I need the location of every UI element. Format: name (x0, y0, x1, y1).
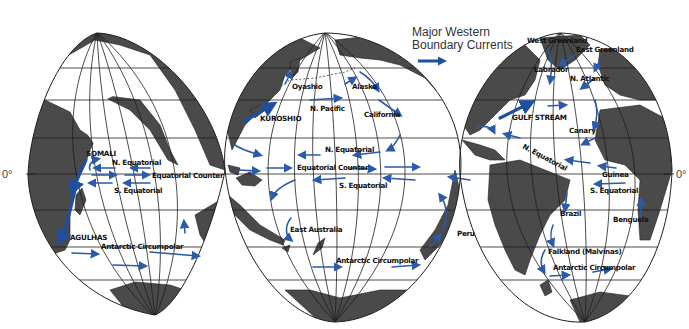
label-pacific-equatorial-counter: Equatorial Counter (297, 163, 369, 172)
label-east-greenland: East Greenland (576, 45, 634, 54)
pacific-ocean-lobe: Oyashio Alaska N. Pacific KUROSHIO Calif… (220, 32, 475, 322)
label-benguela: Benguela (613, 215, 649, 224)
legend-title-line2: Boundary Currents (412, 39, 513, 52)
label-pacific-n-equatorial: N. Equatorial (325, 145, 374, 154)
label-alaska: Alaska (352, 82, 377, 91)
label-peru: Peru (457, 229, 475, 238)
label-somali: SOMALI (86, 149, 117, 158)
label-indian-n-equatorial: N. Equatorial (112, 158, 161, 167)
label-gulf-stream: GULF STREAM (512, 113, 567, 122)
label-pacific-antarctic-circumpolar: Antarctic Circumpolar (336, 256, 419, 265)
label-falkland: Falkland (Malvinas) (548, 247, 621, 256)
equator-label-left: 0° (2, 168, 13, 180)
label-atlantic-antarctic-circumpolar: Antarctic Circumpolar (553, 263, 636, 272)
label-indian-antarctic-circumpolar: Antarctic Circumpolar (101, 242, 184, 251)
label-oyashio: Oyashio (292, 82, 323, 91)
label-california: California (364, 110, 401, 119)
label-indian-equatorial-counter: Equatorial Counter (152, 171, 224, 180)
label-brazil: Brazil (560, 209, 581, 218)
equator-label-right: 0° (676, 168, 687, 180)
label-labrador: Labrador (534, 65, 569, 74)
label-pacific-s-equatorial: S. Equatorial (339, 181, 387, 190)
label-n-pacific: N. Pacific (310, 104, 345, 113)
label-guinea: Guinea (602, 170, 629, 179)
atlantic-ocean-lobe: West Greenland East Greenland Labrador N… (450, 32, 689, 322)
label-canary: Canary (569, 126, 596, 135)
label-indian-s-equatorial: S. Equatorial (114, 186, 162, 195)
label-n-atlantic: N. Atlantic (570, 74, 610, 83)
legend: Major Western Boundary Currents (412, 26, 513, 52)
indian-ocean-lobe: SOMALI N. Equatorial Equatorial Counter … (0, 30, 240, 320)
label-west-greenland: West Greenland (527, 36, 588, 45)
legend-arrow (418, 57, 447, 66)
ocean-currents-map: SOMALI N. Equatorial Equatorial Counter … (0, 0, 689, 329)
label-atlantic-s-equatorial: S. Equatorial (590, 186, 638, 195)
label-kuroshio: KUROSHIO (260, 114, 301, 123)
label-east-australia: East Australia (290, 225, 343, 234)
label-agulhas: AGULHAS (70, 233, 107, 242)
